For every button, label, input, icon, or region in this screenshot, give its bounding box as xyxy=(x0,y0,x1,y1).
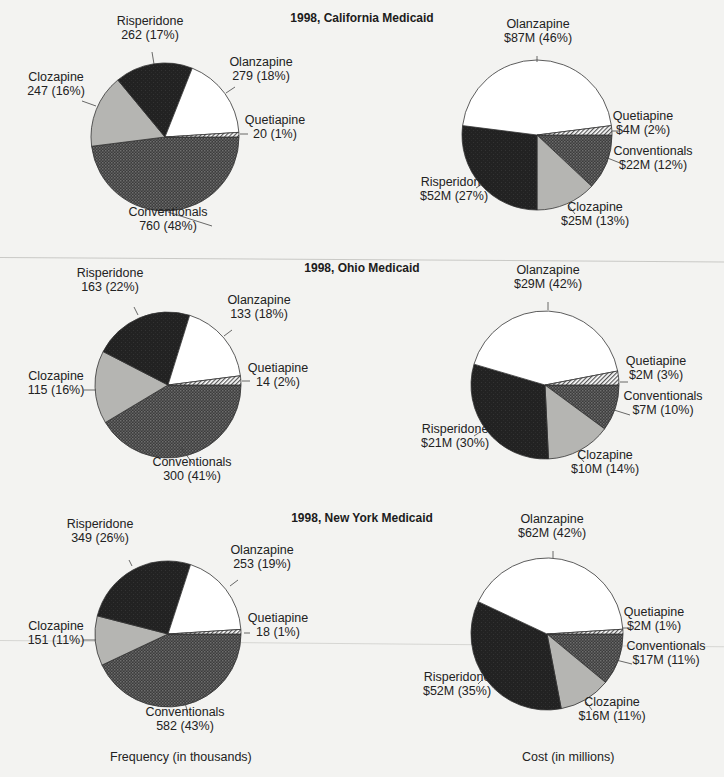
slice-label-name: Quetiapine xyxy=(624,605,685,619)
slice-label-value: $7M (10%) xyxy=(632,403,693,417)
slice-label-name: Olanzapine xyxy=(227,293,290,307)
slice-label-name: Clozapine xyxy=(567,200,623,214)
slice-label-name: Olanzapine xyxy=(229,55,292,69)
slice-label-name: Conventionals xyxy=(145,705,224,719)
pie-chart-2: Conventionals300 (41%)Clozapine115 (16%)… xyxy=(28,266,309,483)
slice-label-name: Clozapine xyxy=(577,448,633,462)
cost-axis-caption: Cost (in millions) xyxy=(522,750,614,764)
pie-chart-3: Conventionals$7M (10%)Clozapine$10M (14%… xyxy=(421,263,703,476)
slice-label-name: Quetiapine xyxy=(245,113,306,127)
slice-label-name: Conventionals xyxy=(128,205,207,219)
frequency-axis-caption: Frequency (in thousands) xyxy=(110,750,252,764)
leader-line xyxy=(82,101,96,106)
leader-line xyxy=(226,87,235,93)
pie-slice-olanzapine xyxy=(463,60,612,135)
slice-label-value: $16M (11%) xyxy=(578,709,645,723)
slice-label-value: 300 (41%) xyxy=(163,469,221,483)
slice-label-value: $52M (27%) xyxy=(420,189,488,203)
slice-label-name: Olanzapine xyxy=(506,17,569,31)
slice-label-value: 349 (26%) xyxy=(71,531,129,545)
slice-label-name: Quetiapine xyxy=(626,354,687,368)
slice-label-value: $52M (35%) xyxy=(423,684,491,698)
slice-label-value: $25M (13%) xyxy=(561,214,629,228)
slice-label-name: Olanzapine xyxy=(516,263,579,277)
slice-label-value: $17M (11%) xyxy=(632,653,699,667)
slice-label-name: Quetiapine xyxy=(248,611,309,625)
leader-line xyxy=(616,660,632,664)
slice-label-name: Clozapine xyxy=(584,695,640,709)
slice-label-value: 253 (19%) xyxy=(233,557,291,571)
slice-label-value: 20 (1%) xyxy=(253,127,297,141)
slice-label-value: $62M (42%) xyxy=(518,526,586,540)
slice-label-name: Conventionals xyxy=(152,455,231,469)
pie-slice-conventionals xyxy=(92,137,239,211)
slice-label-value: 582 (43%) xyxy=(156,719,214,733)
slice-label-name: Conventionals xyxy=(623,389,702,403)
leader-line xyxy=(614,410,630,415)
slice-label-value: 247 (16%) xyxy=(27,84,85,98)
slice-label-name: Olanzapine xyxy=(520,512,583,526)
leader-line xyxy=(224,330,232,336)
slice-label-value: 163 (22%) xyxy=(81,280,139,294)
slice-label-name: Risperidone xyxy=(77,266,144,280)
pie-charts-canvas: Conventionals760 (48%)Clozapine247 (16%)… xyxy=(0,0,724,777)
pie-chart-5: Conventionals$17M (11%)Clozapine$16M (11… xyxy=(423,512,706,723)
slice-label-name: Risperidone xyxy=(67,517,134,531)
slice-label-name: Conventionals xyxy=(613,144,692,158)
slice-label-value: $22M (12%) xyxy=(619,158,687,172)
slice-label-name: Risperidone xyxy=(421,175,488,189)
slice-label-value: $2M (3%) xyxy=(629,368,683,382)
slice-label-name: Risperidone xyxy=(117,14,184,28)
slice-label-value: 115 (16%) xyxy=(28,383,85,397)
slice-label-name: Quetiapine xyxy=(613,109,674,123)
pie-chart-0: Conventionals760 (48%)Clozapine247 (16%)… xyxy=(27,14,305,233)
slice-label-value: 760 (48%) xyxy=(139,219,197,233)
pie-chart-1: Conventionals$22M (12%)Clozapine$25M (13… xyxy=(420,17,693,228)
leader-line xyxy=(134,307,138,315)
leader-line xyxy=(230,580,238,586)
slice-label-name: Conventionals xyxy=(626,639,705,653)
slice-label-value: 151 (11%) xyxy=(28,633,85,647)
slice-label-value: $29M (42%) xyxy=(514,277,582,291)
slice-label-value: 262 (17%) xyxy=(121,28,179,42)
slice-label-name: Clozapine xyxy=(28,369,84,383)
slice-label-value: 14 (2%) xyxy=(256,375,300,389)
slice-label-value: $2M (1%) xyxy=(627,619,681,633)
slice-label-value: $87M (46%) xyxy=(504,31,572,45)
slice-label-value: 279 (18%) xyxy=(232,69,290,83)
slice-label-name: Clozapine xyxy=(28,619,84,633)
slice-label-value: 133 (18%) xyxy=(230,307,288,321)
slice-label-value: $21M (30%) xyxy=(421,436,489,450)
slice-label-value: 18 (1%) xyxy=(256,625,300,639)
slice-label-name: Quetiapine xyxy=(248,361,309,375)
slice-label-value: $4M (2%) xyxy=(616,123,670,137)
pie-chart-4: Conventionals582 (43%)Clozapine151 (11%)… xyxy=(28,517,309,733)
slice-label-value: $10M (14%) xyxy=(571,462,639,476)
slice-label-name: Risperidone xyxy=(424,670,491,684)
slice-label-name: Risperidone xyxy=(422,422,489,436)
slice-label-name: Olanzapine xyxy=(230,543,293,557)
slice-label-name: Clozapine xyxy=(28,70,84,84)
leader-line xyxy=(129,560,132,566)
leader-line xyxy=(152,52,154,64)
